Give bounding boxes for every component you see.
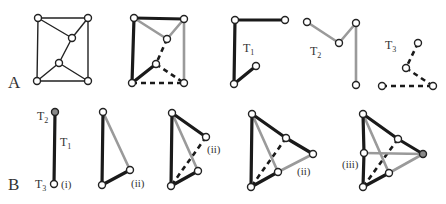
- vertex: [127, 167, 134, 174]
- vertex: [153, 61, 160, 68]
- case-label-ii: (ii): [297, 165, 311, 178]
- vertex: [169, 110, 176, 117]
- vertex: [304, 19, 311, 26]
- vertex: [181, 80, 188, 87]
- vertex: [51, 181, 58, 188]
- vertex: [353, 82, 360, 89]
- vertex: [129, 80, 136, 87]
- vertex: [249, 111, 256, 118]
- vertex: [253, 63, 260, 70]
- vertex: [203, 134, 210, 141]
- panel-b2-step-ii: (ii): [99, 109, 145, 191]
- vertex: [85, 15, 92, 22]
- vertex: [164, 36, 171, 43]
- vertex: [360, 184, 367, 191]
- case-label-i: (i): [61, 178, 72, 191]
- vertex: [353, 20, 360, 27]
- case-label-ii: (ii): [131, 177, 145, 190]
- vertex: [56, 60, 63, 67]
- panel-a1-original-graph: [34, 15, 92, 85]
- vertex: [379, 83, 386, 90]
- vertex: [99, 182, 106, 189]
- tree-label-t2: T2: [37, 109, 48, 125]
- vertex: [69, 35, 76, 42]
- panel-b5-step-iii: (iii): [342, 111, 427, 191]
- tree-label-t3: T3: [385, 38, 396, 54]
- vertex: [403, 65, 410, 72]
- panel-a3-tree-t1: T1: [231, 17, 289, 88]
- vertex: [415, 40, 422, 47]
- vertex: [195, 168, 202, 175]
- vertex: [275, 169, 282, 176]
- row-label-b: B: [8, 175, 19, 194]
- case-label-iii: (iii): [342, 158, 359, 171]
- panel-b4-step-ii: (ii): [248, 111, 317, 191]
- vertex: [85, 78, 92, 85]
- tree-label-t3: T3: [35, 177, 46, 193]
- vertex: [361, 150, 368, 157]
- tree-label-t1: T1: [60, 135, 71, 151]
- vertex: [231, 81, 238, 88]
- vertex: [395, 136, 402, 143]
- vertex: [336, 40, 343, 47]
- vertex: [282, 17, 289, 24]
- tree-label-t1: T1: [243, 41, 254, 57]
- vertex: [35, 15, 42, 22]
- row-label-a: A: [8, 73, 21, 92]
- vertex: [386, 170, 393, 177]
- vertex: [232, 17, 239, 24]
- case-label-ii: (ii): [207, 143, 221, 156]
- vertex: [168, 183, 175, 190]
- vertex-filled: [420, 151, 427, 158]
- vertex: [34, 78, 41, 85]
- panel-b3-step-ii: (ii): [168, 110, 221, 190]
- vertex: [430, 83, 437, 90]
- vertex: [283, 135, 290, 142]
- panel-b1-step-i: T2 T1 T3 (i): [35, 109, 72, 194]
- vertex: [100, 109, 107, 116]
- tree-decomposition-figure: A: [0, 0, 446, 204]
- vertex: [360, 111, 367, 118]
- panel-a2-decomposition: [129, 15, 188, 87]
- vertex-filled: [52, 109, 59, 116]
- panel-a5-tree-t3: T3: [379, 38, 437, 90]
- vertex: [310, 151, 317, 158]
- vertex: [248, 184, 255, 191]
- panel-a4-tree-t2: T2: [304, 19, 360, 89]
- vertex: [181, 16, 188, 23]
- vertex: [131, 15, 138, 22]
- tree-label-t2: T2: [310, 44, 321, 60]
